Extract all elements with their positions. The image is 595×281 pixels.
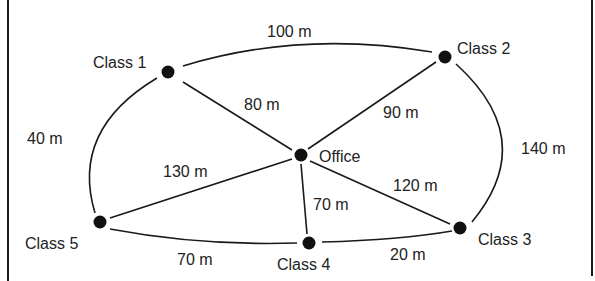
edge-label-class2-class3: 140 m xyxy=(521,140,565,157)
edge-label-office-class5: 130 m xyxy=(163,163,207,180)
node-label-class5: Class 5 xyxy=(25,235,78,252)
edge-class1-office xyxy=(183,82,292,150)
edge-class5-class4 xyxy=(110,229,297,243)
node-class4 xyxy=(303,237,316,250)
edge-class4-class3 xyxy=(322,231,452,242)
edge-label-class1-class5: 40 m xyxy=(27,130,63,147)
edge-label-office-class3: 120 m xyxy=(393,177,437,194)
edge-label-class5-class4: 70 m xyxy=(177,251,213,268)
network-diagram: Class 1 Class 2 Office Class 3 Class 4 C… xyxy=(0,0,595,281)
edge-label-class4-class3: 20 m xyxy=(390,246,426,263)
edge-class1-class2 xyxy=(183,44,432,66)
edge-class1-class5 xyxy=(89,78,157,213)
node-class3 xyxy=(454,222,467,235)
node-label-office: Office xyxy=(319,148,361,165)
edge-class2-class3 xyxy=(456,64,502,222)
node-label-class1: Class 1 xyxy=(93,54,146,71)
node-class1 xyxy=(162,66,175,79)
node-label-class4: Class 4 xyxy=(277,256,330,273)
edge-label-class1-office: 80 m xyxy=(244,96,280,113)
edge-office-class4 xyxy=(301,164,307,234)
node-class5 xyxy=(94,216,107,229)
edge-label-class1-class2: 100 m xyxy=(267,23,311,40)
node-label-class3: Class 3 xyxy=(478,231,531,248)
node-label-class2: Class 2 xyxy=(457,40,510,57)
node-office xyxy=(295,149,308,162)
node-class2 xyxy=(439,51,452,64)
edge-label-class2-office: 90 m xyxy=(383,104,419,121)
edge-label-office-class4: 70 m xyxy=(313,196,349,213)
